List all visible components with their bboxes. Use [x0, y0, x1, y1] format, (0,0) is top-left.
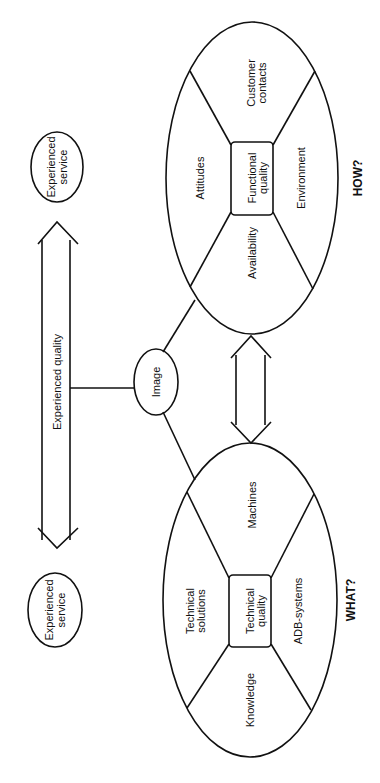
service-quality-diagram: Experienced quality Experienced service …: [0, 0, 380, 783]
experienced-quality-arrow: Experienced quality: [38, 222, 78, 548]
image-node: Image: [134, 300, 195, 480]
environment-label: Environment: [295, 147, 307, 209]
technical-solutions-line2: solutions: [195, 589, 207, 633]
experienced-service-bottom-line1: Experienced: [43, 579, 55, 640]
experienced-service-node-top: Experienced service: [31, 132, 83, 202]
adb-systems-label: ADB-systems: [292, 577, 304, 644]
how-question-label: HOW?: [351, 160, 365, 197]
technical-quality-ellipse: Technical quality Machines Technical sol…: [163, 443, 337, 757]
customer-contacts-line2: contacts: [256, 62, 268, 103]
availability-label: Availability: [246, 227, 258, 279]
machines-label: Machines: [246, 481, 258, 529]
experienced-service-top-line2: service: [57, 150, 69, 185]
knowledge-label: Knowledge: [244, 673, 256, 727]
image-label: Image: [150, 367, 162, 398]
technical-quality-line2: quality: [255, 595, 267, 627]
functional-quality-line2: quality: [257, 162, 269, 194]
functional-quality-ellipse: Functional quality Customer contacts Att…: [166, 22, 338, 334]
attitudes-label: Attitudes: [194, 156, 206, 199]
experienced-service-node-bottom: Experienced service: [28, 573, 82, 647]
interaction-double-arrow: [231, 336, 271, 443]
experienced-service-top-line1: Experienced: [45, 136, 57, 197]
experienced-quality-label: Experienced quality: [51, 334, 63, 431]
what-question-label: WHAT?: [344, 579, 358, 621]
experienced-service-bottom-line2: service: [55, 593, 67, 628]
